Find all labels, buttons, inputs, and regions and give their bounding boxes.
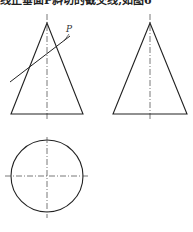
front-view: P	[10, 14, 83, 120]
plane-p-label: P	[65, 24, 73, 34]
cone-projection-drawing: P	[0, 0, 193, 232]
side-view	[113, 14, 187, 120]
top-view	[5, 137, 90, 218]
